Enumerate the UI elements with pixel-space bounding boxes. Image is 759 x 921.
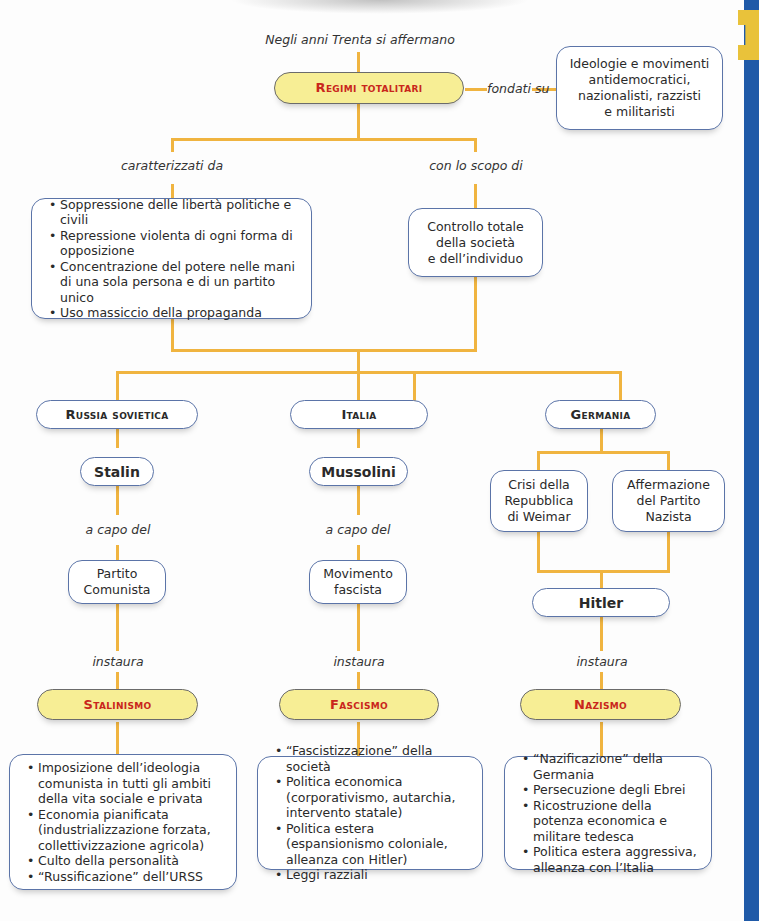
leader-node-hitler[interactable]: Hitler [532, 588, 670, 617]
text-line: della società [436, 235, 515, 251]
chapter-tab [738, 10, 759, 60]
foundation-connector: fondati su [487, 81, 532, 96]
connector [328, 138, 477, 141]
foundation-node[interactable]: Ideologie e movimenti antidemocratici, n… [556, 46, 723, 130]
list-item: Concentrazione del potere nelle mani di … [60, 259, 301, 306]
connector [600, 672, 603, 690]
features-list: Imposizione dell’ideologia comunista in … [24, 760, 226, 884]
root-node[interactable]: Regimi totalitari [274, 72, 464, 104]
text-line: fascista [334, 582, 382, 598]
connector [116, 722, 119, 756]
leader-name: Stalin [94, 464, 140, 480]
connector [357, 371, 360, 401]
list-item: “Nazificazione” della Germania [533, 751, 701, 782]
connector [537, 570, 670, 573]
intro-label: Negli anni Trenta si affermano [210, 32, 510, 47]
purpose-connector: con lo scopo di [376, 158, 576, 173]
leader-connector: a capo del [58, 522, 178, 537]
root-title: Regimi totalitari [316, 80, 423, 96]
list-item: Repressione violenta di ogni forma di op… [60, 228, 301, 259]
text-line: nazionalisti, razzisti [578, 88, 701, 104]
text-line: Partito [97, 566, 138, 582]
connector [357, 672, 360, 690]
connector [537, 451, 540, 471]
connector [357, 349, 360, 373]
connector [116, 371, 119, 401]
characteristics-connector: caratterizzati da [72, 158, 272, 173]
list-item: Persecuzione degli Ebrei [533, 782, 701, 798]
leader-connector: a capo del [298, 522, 418, 537]
text-line: del Partito [637, 493, 701, 509]
leader-node-mussolini[interactable]: Mussolini [309, 457, 408, 486]
features-nazismo[interactable]: “Nazificazione” della Germania Persecuzi… [504, 756, 712, 870]
list-item: Economia pianificata (industrializzazion… [38, 807, 226, 854]
list-item: “Russificazione” dell’URSS [38, 869, 226, 885]
text-line: Repubblica [504, 493, 573, 509]
connector [474, 184, 477, 208]
text-line: Controllo totale [427, 219, 524, 235]
connector [116, 672, 119, 690]
regime-node-nazismo[interactable]: Nazismo [520, 689, 681, 720]
country-name: Russia sovietica [66, 407, 169, 423]
connector [357, 104, 360, 141]
party-node-comunista[interactable]: Partito Comunista [68, 560, 166, 604]
features-stalinismo[interactable]: Imposizione dell’ideologia comunista in … [9, 754, 237, 890]
country-node-italia[interactable]: Italia [290, 400, 428, 429]
list-item: Imposizione dell’ideologia comunista in … [38, 760, 226, 807]
connector [537, 530, 540, 572]
connector [357, 485, 360, 515]
leader-name: Mussolini [321, 464, 396, 480]
leader-name: Hitler [579, 595, 623, 611]
regime-name: Nazismo [574, 697, 627, 713]
text-line: e dell’individuo [428, 251, 523, 267]
connector [600, 570, 603, 590]
text-line: Comunista [84, 582, 151, 598]
regime-node-fascismo[interactable]: Fascismo [279, 689, 439, 720]
list-item: Ricostruzione della potenza economica e … [533, 798, 701, 845]
regime-name: Fascismo [330, 697, 388, 713]
connector [600, 428, 603, 453]
party-node-fascista[interactable]: Movimento fascista [309, 560, 407, 604]
features-list: “Nazificazione” della Germania Persecuzi… [519, 751, 701, 875]
list-item: Soppressione delle libertà politiche e c… [60, 197, 301, 228]
text-line: di Weimar [507, 509, 570, 525]
cause-node-weimar[interactable]: Crisi della Repubblica di Weimar [490, 470, 588, 532]
list-item: Politica estera aggressiva, alleanza con… [533, 844, 701, 875]
country-name: Italia [341, 407, 376, 423]
features-list: “Fascistizzazione” della società Politic… [272, 743, 472, 883]
text-line: Movimento [323, 566, 393, 582]
purpose-node[interactable]: Controllo totale della società e dell’in… [408, 208, 543, 277]
connector [357, 603, 360, 651]
connector [414, 371, 622, 374]
country-node-germania[interactable]: Germania [545, 400, 656, 429]
leader-node-stalin[interactable]: Stalin [80, 457, 154, 486]
connector [171, 318, 174, 351]
list-item: Culto della personalità [38, 853, 226, 869]
connector [171, 138, 328, 141]
connector [357, 52, 360, 72]
connector [619, 371, 622, 401]
regime-node-stalinismo[interactable]: Stalinismo [37, 689, 198, 720]
text-line: Crisi della [508, 477, 570, 493]
text-line: Affermazione [627, 477, 710, 493]
list-item: Leggi razziali [286, 867, 472, 883]
characteristics-node[interactable]: Soppressione delle libertà politiche e c… [31, 198, 312, 319]
connector [357, 428, 360, 448]
regime-connector: instaura [68, 654, 168, 669]
connector [116, 428, 119, 448]
connector [171, 138, 174, 152]
cause-node-partito-nazista[interactable]: Affermazione del Partito Nazista [612, 470, 725, 532]
connector [171, 349, 477, 352]
top-shadow [230, 0, 530, 14]
connector [116, 371, 416, 374]
country-node-russia[interactable]: Russia sovietica [36, 400, 198, 429]
country-name: Germania [571, 407, 631, 423]
connector [667, 530, 670, 572]
connector [600, 616, 603, 651]
connector [465, 88, 487, 91]
text-line: e militaristi [604, 104, 674, 120]
text-line: Nazista [645, 509, 691, 525]
connector [667, 451, 670, 471]
connector [537, 451, 670, 454]
features-fascismo[interactable]: “Fascistizzazione” della società Politic… [257, 756, 483, 870]
